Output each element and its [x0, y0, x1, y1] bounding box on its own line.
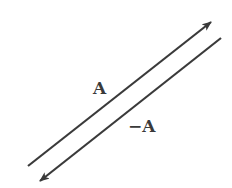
vector-a-arrow [28, 22, 211, 166]
vector-neg-a-arrow [40, 38, 221, 181]
vector-a-label: A [93, 80, 106, 97]
vector-neg-a-label: −A [128, 118, 155, 135]
vector-diagram [0, 0, 232, 188]
